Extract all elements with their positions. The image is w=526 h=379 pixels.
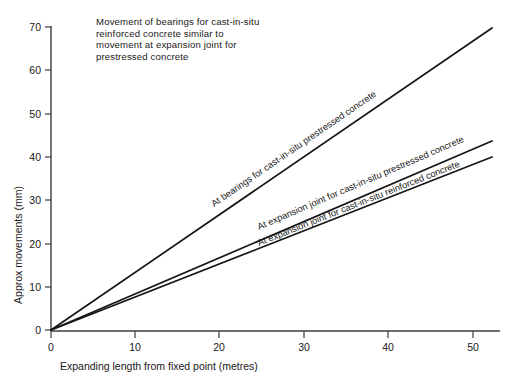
y-tick-label-10: 10	[29, 281, 41, 293]
y-axis-title: Approx movements (mm)	[12, 186, 24, 304]
x-tick-label-0: 0	[48, 341, 54, 353]
chart-page: Movement of bearings for cast-in-situ re…	[0, 0, 526, 379]
x-tick-label-40: 40	[382, 341, 394, 353]
y-tick-label-60: 60	[29, 64, 41, 76]
x-axis-title: Expanding length from fixed point (metre…	[60, 360, 258, 372]
y-tick-label-30: 30	[29, 194, 41, 206]
x-tick-label-30: 30	[298, 341, 310, 353]
x-tick-label-20: 20	[213, 341, 225, 353]
y-tick-label-40: 40	[29, 151, 41, 163]
y-tick-label-70: 70	[29, 21, 41, 33]
y-tick-label-0: 0	[35, 324, 41, 336]
series-label-expansion-joint-reinforced: At expansion joint for cast-in-situ rein…	[256, 159, 461, 248]
y-tick-label-20: 20	[29, 238, 41, 250]
y-axis-ticks	[45, 27, 51, 330]
chart-canvas: 0 10 20 30 40 50 60 70 0 10 20 30 40 50 …	[0, 0, 526, 379]
x-tick-label-10: 10	[129, 341, 141, 353]
series-line-expansion-joint-reinforced	[51, 157, 492, 330]
x-axis-ticks	[51, 331, 473, 338]
y-tick-label-50: 50	[29, 108, 41, 120]
x-axis-tick-labels: 0 10 20 30 40 50	[48, 341, 479, 353]
x-tick-label-50: 50	[467, 341, 479, 353]
y-axis-tick-labels: 0 10 20 30 40 50 60 70	[29, 21, 41, 336]
